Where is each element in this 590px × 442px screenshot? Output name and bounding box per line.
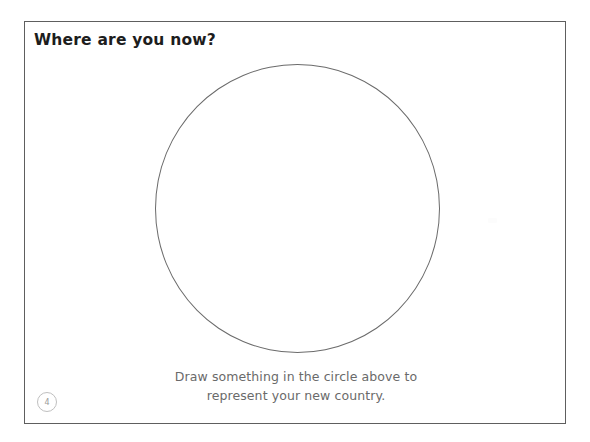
caption-text: Draw something in the circle above to re… (120, 367, 472, 405)
page-title: Where are you now? (34, 30, 216, 50)
caption-line-1: Draw something in the circle above to (120, 367, 472, 386)
faint-smudge-mark (488, 218, 497, 223)
worksheet-page: Where are you now? Draw something in the… (0, 0, 590, 442)
caption-line-2: represent your new country. (120, 386, 472, 405)
page-number-label: 4 (44, 398, 49, 407)
page-number-badge: 4 (37, 392, 57, 412)
drawing-circle-area[interactable] (155, 64, 440, 353)
